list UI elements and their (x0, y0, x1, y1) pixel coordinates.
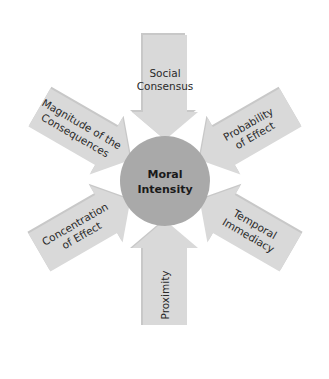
arrow-label: Consensus (137, 80, 194, 92)
arrow-proximity: Proximity (130, 220, 198, 325)
arrow-social-consensus: Social Consensus (130, 33, 198, 140)
arrow-label: Proximity (159, 271, 171, 320)
moral-intensity-diagram: Social Consensus Probability of Effect T… (0, 0, 329, 379)
center-node: Moral Intensity (120, 136, 210, 226)
arrow-label: Social (149, 67, 180, 79)
center-circle (120, 136, 210, 226)
center-label-line2: Intensity (137, 183, 192, 196)
center-label-line1: Moral (147, 168, 182, 181)
